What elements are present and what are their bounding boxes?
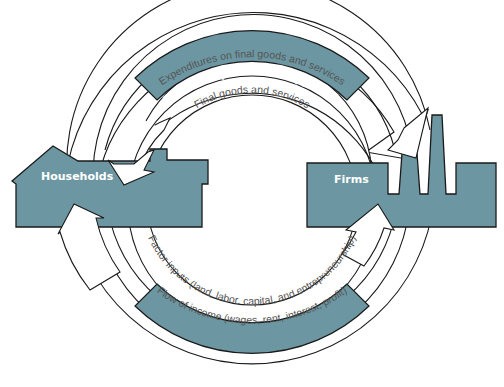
circular-flow-diagram: Households Firms Expenditures on final g…	[0, 0, 504, 387]
households-label: Households	[41, 170, 114, 183]
firms-label: Firms	[334, 173, 369, 186]
